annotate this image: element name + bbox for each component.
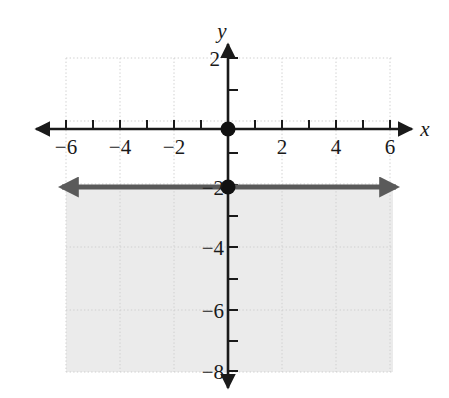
y-tick-label--4: −4 (202, 236, 225, 260)
x-tick-label-6: 6 (385, 135, 396, 159)
x-tick-label--6: −6 (55, 135, 77, 159)
y-axis-label: y (215, 19, 227, 43)
point-origin (221, 122, 236, 137)
y-tick-label-2: 2 (210, 47, 221, 71)
x-tick-label-2: 2 (277, 135, 288, 159)
coordinate-plane-graph: −6 −4 −2 2 4 6 2 −2 −4 −6 −8 x y (0, 0, 449, 398)
y-tick-label--6: −6 (202, 299, 224, 323)
y-tick-label--2: −2 (202, 176, 224, 200)
y-tick-label--8: −8 (202, 360, 224, 384)
graph-svg: −6 −4 −2 2 4 6 2 −2 −4 −6 −8 x y (0, 0, 449, 398)
x-tick-label-4: 4 (331, 135, 342, 159)
x-tick-label--2: −2 (163, 135, 185, 159)
x-axis-label: x (419, 117, 430, 141)
x-tick-label--4: −4 (109, 135, 132, 159)
